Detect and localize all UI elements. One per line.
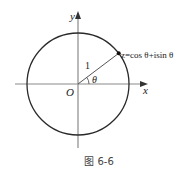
angle-arc bbox=[87, 77, 89, 84]
point-label: z=cos θ+isin θ bbox=[121, 50, 173, 60]
angle-label: θ bbox=[92, 74, 97, 85]
unit-circle-diagram: y x O 1 θ z=cos θ+isin θ 图 6-6 bbox=[0, 0, 193, 181]
origin-label: O bbox=[66, 86, 74, 98]
radius-label: 1 bbox=[85, 60, 90, 71]
x-axis-label: x bbox=[142, 84, 148, 96]
figure-caption: 图 6-6 bbox=[84, 156, 114, 167]
y-axis-arrow-icon bbox=[75, 11, 81, 19]
y-axis-label: y bbox=[69, 10, 75, 22]
